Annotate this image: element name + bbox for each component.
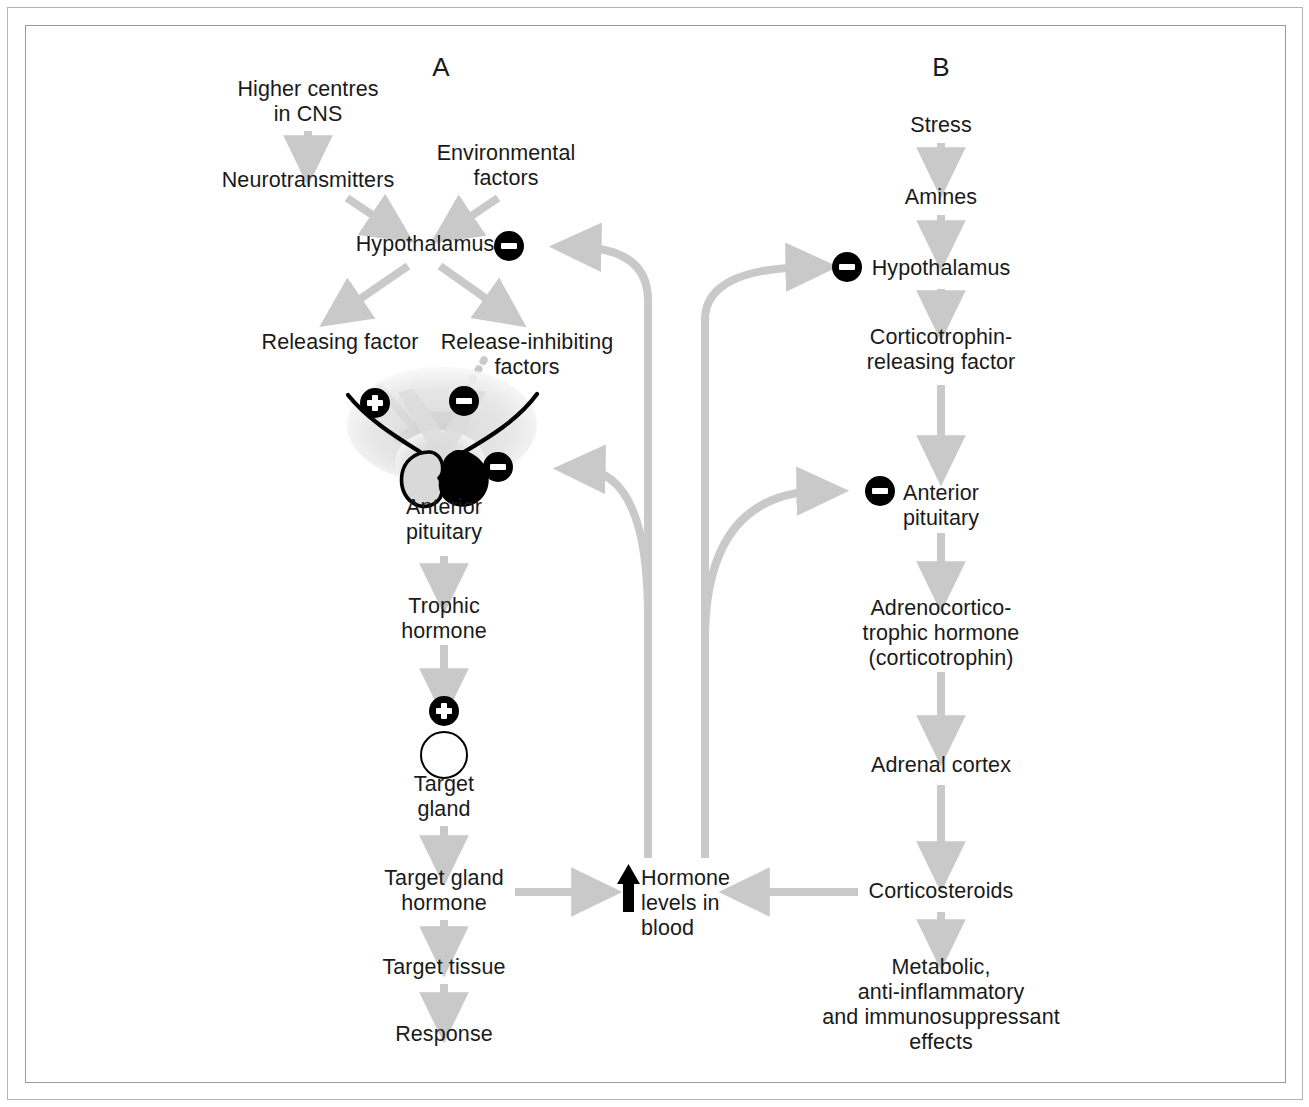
label-target-gland: Target gland	[374, 772, 514, 822]
label-adrenal-cortex: Adrenal cortex	[846, 753, 1036, 778]
label-hypothalamus-a: Hypothalamus	[330, 232, 520, 257]
plus-bar-vertical	[372, 395, 378, 411]
label-amines: Amines	[866, 185, 1016, 210]
label-release-inhibiting-factors: Release-inhibiting factors	[432, 330, 622, 380]
minus-bar	[501, 243, 517, 249]
minus-sign-badge-hypothalamus-a	[494, 231, 524, 261]
minus-sign-badge-hypothalamus-b	[832, 252, 862, 282]
target-gland-circle-icon	[420, 731, 468, 779]
panel-letter-b: B	[906, 52, 976, 83]
label-releasing-factor: Releasing factor	[240, 330, 440, 355]
label-corticosteroids: Corticosteroids	[846, 879, 1036, 904]
label-metabolic-effects: Metabolic, anti-inflammatory and immunos…	[806, 955, 1076, 1056]
label-target-gland-hormone: Target gland hormone	[354, 866, 534, 916]
label-stress: Stress	[866, 113, 1016, 138]
minus-sign-badge-anterior-pituitary-b	[865, 476, 895, 506]
minus-bar	[490, 464, 506, 470]
plus-sign-badge-target-gland	[429, 696, 459, 726]
black-up-arrow-icon	[617, 864, 640, 912]
minus-sign-badge-anterior-pituitary-a	[483, 452, 513, 482]
label-higher-centres-in-cns: Higher centres in CNS	[198, 77, 418, 127]
plus-bar-vertical	[441, 703, 447, 719]
minus-bar	[872, 488, 888, 494]
diagram-canvas: A B Higher centres in CNS Neurotransmitt…	[0, 0, 1309, 1107]
label-anterior-pituitary-a: Anterior pituitary	[374, 495, 514, 545]
minus-sign-badge-release-inhibiting	[449, 386, 479, 416]
label-environmental-factors: Environmental factors	[416, 141, 596, 191]
label-neurotransmitters: Neurotransmitters	[188, 168, 428, 193]
label-hypothalamus-b: Hypothalamus	[846, 256, 1036, 281]
minus-bar	[456, 398, 472, 404]
plus-sign-badge-releasing-factor	[360, 388, 390, 418]
label-hormone-levels-in-blood: Hormone levels in blood	[641, 866, 767, 941]
label-response: Response	[369, 1022, 519, 1047]
label-acth: Adrenocortico- trophic hormone (corticot…	[821, 596, 1061, 671]
label-trophic-hormone: Trophic hormone	[374, 594, 514, 644]
label-corticotrophin-releasing-factor: Corticotrophin- releasing factor	[836, 325, 1046, 375]
minus-bar	[839, 264, 855, 270]
label-target-tissue: Target tissue	[359, 955, 529, 980]
